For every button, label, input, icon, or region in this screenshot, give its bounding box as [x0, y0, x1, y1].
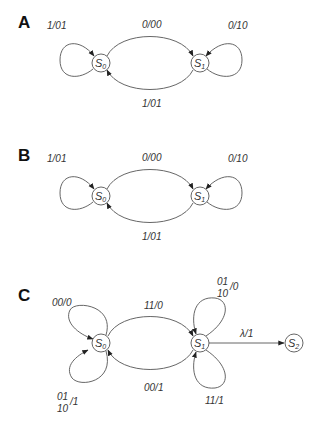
- edge-label-s1-upper-top: 01: [217, 276, 228, 287]
- panel-label-a: A: [18, 13, 30, 32]
- diagram-c: C 00/0 01 10 /1 11/0 00/1 01 10 /0 11/1 …: [18, 276, 303, 414]
- state-s1: S1: [191, 187, 209, 205]
- self-loop-s0: [60, 44, 94, 77]
- edge-s0-to-s1: [108, 317, 193, 337]
- edge-label-s1-self: 0/10: [228, 153, 248, 164]
- edge-label-s0-s1: 0/00: [142, 19, 162, 30]
- edge-label-s1-self: 0/10: [228, 20, 248, 31]
- state-s2: S2: [285, 334, 303, 352]
- edge-s1-to-s0: [107, 203, 193, 223]
- edge-label-s0-self: 1/01: [47, 20, 66, 31]
- edge-label-s1-upper-bottom: 10: [217, 288, 229, 299]
- edge-s0-to-s1: [107, 170, 193, 190]
- diagram-a: A 1/01 0/00 0/10 1/01 S0 S1: [18, 13, 248, 109]
- edge-label-s0-s1: 11/0: [144, 300, 163, 311]
- edge-label-s0-s1: 0/00: [142, 152, 162, 163]
- edge-s1-to-s0: [108, 350, 193, 370]
- edge-label-s1-lower: 11/1: [205, 395, 224, 406]
- panel-label-b: B: [18, 146, 30, 165]
- self-loop-s0: [60, 177, 94, 210]
- state-s0: S0: [92, 54, 110, 72]
- self-loop-s1-upper: [194, 298, 226, 336]
- edge-label-s1-upper-out: /0: [229, 281, 239, 292]
- self-loop-s1-lower: [194, 350, 226, 388]
- edge-label-s1-s2: λ/1: [239, 328, 253, 339]
- state-s1: S1: [191, 54, 209, 72]
- edge-s0-to-s1: [107, 37, 193, 57]
- edge-label-s0-lower-top: 01: [57, 391, 68, 402]
- edge-label-s1-s0: 1/01: [142, 231, 161, 242]
- panel-label-c: C: [18, 286, 30, 305]
- self-loop-s1: [206, 44, 242, 77]
- diagram-b: B 1/01 0/00 0/10 1/01 S0 S1: [18, 146, 248, 242]
- state-s0: S0: [92, 334, 110, 352]
- edge-s1-to-s0: [107, 70, 193, 90]
- edge-label-s0-lower-out: /1: [69, 396, 78, 407]
- self-loop-s0-lower: [69, 350, 107, 382]
- edge-label-s1-s0: 1/01: [142, 98, 161, 109]
- edge-label-s0-self: 1/01: [47, 153, 66, 164]
- state-s0: S0: [92, 187, 110, 205]
- state-diagrams-figure: A 1/01 0/00 0/10 1/01 S0 S1 B 1/01 0/00 …: [0, 0, 314, 431]
- edge-label-s0-lower-bottom: 10: [57, 403, 69, 414]
- self-loop-s1: [206, 177, 242, 210]
- state-s1: S1: [191, 334, 209, 352]
- edge-label-s1-s0: 00/1: [144, 382, 163, 393]
- edge-label-s0-upper: 00/0: [52, 297, 72, 308]
